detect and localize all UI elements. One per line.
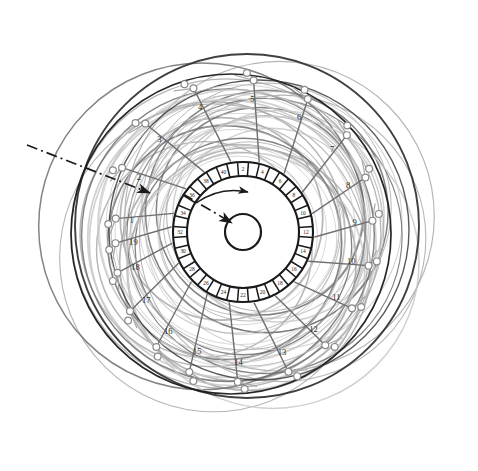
shaft-bore	[225, 214, 261, 250]
coil-node[interactable]	[109, 278, 116, 285]
coil-node[interactable]	[343, 132, 350, 139]
coil-node[interactable]	[365, 262, 372, 269]
coil-node[interactable]	[127, 308, 134, 315]
coil-node[interactable]	[105, 221, 112, 228]
coil-node[interactable]	[119, 164, 126, 171]
slot-label-2: 2	[242, 166, 245, 172]
coil-node[interactable]	[106, 246, 113, 253]
coil-node[interactable]	[375, 210, 382, 217]
coil-node[interactable]	[234, 379, 241, 386]
coil-label-1: 1	[129, 215, 133, 225]
slot-label-40: 40	[221, 169, 227, 175]
coil-label-4: 4	[198, 102, 203, 112]
coil-node[interactable]	[322, 342, 329, 349]
slot-label-26: 26	[203, 280, 209, 286]
coil-node[interactable]	[344, 122, 351, 129]
coil-label-19: 19	[129, 237, 138, 247]
coil-node[interactable]	[186, 369, 193, 376]
slot-label-24: 24	[221, 289, 227, 295]
slot-label-28: 28	[189, 266, 195, 272]
coil-node[interactable]	[294, 373, 301, 380]
coil-label-10: 10	[347, 256, 356, 266]
coil-node[interactable]	[285, 368, 292, 375]
coil-node[interactable]	[190, 378, 197, 385]
coil-node[interactable]	[114, 269, 121, 276]
coil-node[interactable]	[142, 120, 149, 127]
coil-node[interactable]	[153, 344, 160, 351]
coil-node[interactable]	[112, 240, 119, 247]
coil-label-15: 15	[193, 346, 202, 356]
coil-node[interactable]	[112, 215, 119, 222]
coil-label-9: 9	[352, 217, 356, 227]
coil-label-7: 7	[330, 144, 335, 154]
slot-label-32: 32	[177, 229, 183, 235]
slot-label-22: 22	[240, 292, 246, 298]
coil-node[interactable]	[301, 86, 308, 93]
slot-label-16: 16	[291, 266, 297, 272]
slot-label-36: 36	[189, 192, 195, 198]
slot-label-8: 8	[293, 192, 296, 198]
winding-diagram-svg: 246810121416182022242628303234363840 123…	[0, 0, 478, 471]
coil-label-11: 11	[332, 292, 340, 302]
slot-label-4: 4	[261, 169, 264, 175]
slot-label-30: 30	[180, 248, 186, 254]
slot-label-12: 12	[303, 229, 309, 235]
coil-node[interactable]	[331, 343, 338, 350]
slot-label-34: 34	[180, 210, 186, 216]
coil-node[interactable]	[369, 217, 376, 224]
coil-node[interactable]	[125, 317, 132, 324]
coil-node[interactable]	[154, 353, 161, 360]
coil-node[interactable]	[110, 167, 117, 174]
slot-label-18: 18	[277, 280, 283, 286]
coil-label-12: 12	[309, 324, 318, 334]
coil-node[interactable]	[349, 305, 356, 312]
coil-label-6: 6	[297, 112, 302, 122]
coil-spoke	[254, 303, 288, 372]
coil-node[interactable]	[373, 258, 380, 265]
coil-node[interactable]	[132, 120, 139, 127]
slot-label-6: 6	[279, 178, 282, 184]
coil-node[interactable]	[304, 96, 311, 103]
coil-node[interactable]	[241, 386, 248, 393]
coil-node[interactable]	[250, 77, 257, 84]
coil-node[interactable]	[190, 85, 197, 92]
coil-label-13: 13	[278, 347, 287, 357]
coil-label-5: 5	[250, 94, 254, 104]
slot-label-10: 10	[300, 210, 306, 216]
coil-node[interactable]	[362, 174, 369, 181]
coil-label-3: 3	[157, 134, 161, 144]
coil-node[interactable]	[243, 70, 250, 77]
coil-label-18: 18	[131, 262, 140, 272]
coil-label-17: 17	[142, 295, 151, 305]
coil-label-2: 2	[137, 172, 141, 182]
slot-label-20: 20	[260, 289, 266, 295]
coil-node[interactable]	[366, 165, 373, 172]
slot-label-14: 14	[300, 248, 306, 254]
coil-node[interactable]	[358, 304, 365, 311]
coil-node[interactable]	[181, 81, 188, 88]
slot-label-38: 38	[203, 178, 209, 184]
figure-canvas: 246810121416182022242628303234363840 123…	[0, 0, 478, 471]
coil-label-14: 14	[234, 357, 243, 367]
coil-label-16: 16	[164, 326, 173, 336]
coil-label-8: 8	[346, 180, 350, 190]
